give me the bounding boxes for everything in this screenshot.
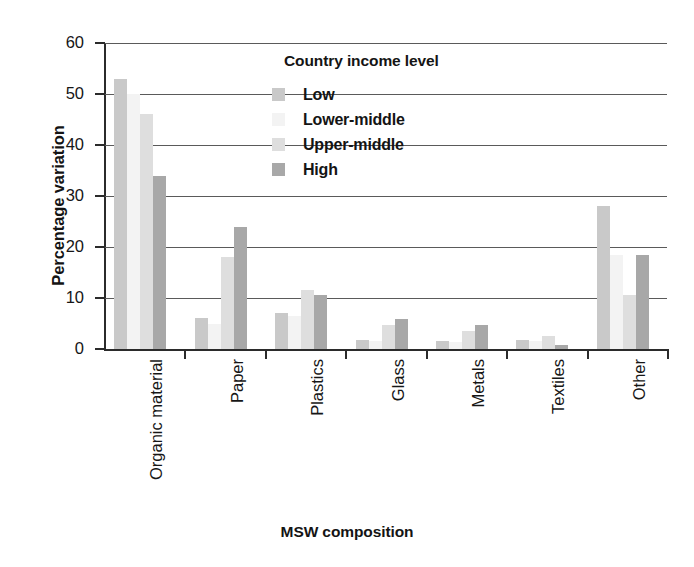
bar: [314, 295, 327, 349]
x-axis-tick-label: Other: [631, 359, 648, 519]
x-axis-tick-mark: [506, 349, 508, 359]
x-axis-tick-label: Glass: [390, 359, 407, 519]
bar: [597, 206, 610, 349]
bar: [436, 341, 449, 349]
bar: [529, 341, 542, 349]
bar-group: [597, 43, 649, 349]
legend-entry-label: Upper-middle: [303, 136, 404, 154]
x-axis-tick-label: Plastics: [309, 359, 326, 519]
x-axis-tick-label: Paper: [229, 359, 246, 519]
legend-entry-label: High: [303, 161, 338, 179]
y-axis-tick-label: 50: [0, 85, 84, 102]
y-axis-tick-mark: [95, 297, 105, 299]
x-axis-tick-labels: Organic materialPaperPlasticsGlassMetals…: [104, 359, 667, 519]
legend-entry-list: LowLower-middleUpper-middleHigh: [272, 82, 532, 182]
bar: [208, 324, 221, 350]
y-axis-tick-label: 30: [0, 187, 84, 204]
legend-entry: Lower-middle: [272, 107, 532, 132]
bar: [516, 340, 529, 349]
legend-swatch-icon: [272, 163, 285, 176]
bar: [288, 316, 301, 349]
x-axis-tick-mark: [265, 349, 267, 359]
x-axis-tick-mark: [345, 349, 347, 359]
y-axis-tick-mark: [95, 144, 105, 146]
y-axis-line: [104, 43, 106, 351]
y-axis-tick-mark: [95, 93, 105, 95]
bar: [462, 331, 475, 349]
y-axis-tick-label: 60: [0, 34, 84, 51]
bar: [356, 340, 369, 349]
legend-swatch-icon: [272, 138, 285, 151]
y-axis-tick-mark: [95, 195, 105, 197]
x-axis-tick-mark: [587, 349, 589, 359]
y-axis-tick-mark: [95, 42, 105, 44]
x-axis-tick-mark: [667, 349, 669, 359]
bar: [127, 94, 140, 349]
legend-title: Country income level: [272, 52, 532, 70]
x-axis-tick-label: Metals: [470, 359, 487, 519]
y-axis-tick-label: 0: [0, 340, 84, 357]
legend-swatch-icon: [272, 88, 285, 101]
bar: [475, 325, 488, 349]
legend-entry-label: Lower-middle: [303, 111, 405, 129]
bar: [542, 336, 555, 349]
x-axis-tick-label: Textiles: [550, 359, 567, 519]
bar: [382, 325, 395, 349]
chart-legend: Country income level LowLower-middleUppe…: [272, 52, 532, 182]
y-axis-tick-label: 20: [0, 238, 84, 255]
legend-swatch-icon: [272, 113, 285, 126]
bar: [610, 255, 623, 349]
bar: [114, 79, 127, 349]
bar: [153, 176, 166, 349]
legend-entry: Low: [272, 82, 532, 107]
x-axis-tick-label: Organic material: [148, 359, 165, 519]
y-axis-tick-label: 40: [0, 136, 84, 153]
bar-group: [114, 43, 166, 349]
x-axis-title: MSW composition: [0, 523, 694, 541]
bar: [275, 313, 288, 349]
legend-entry-label: Low: [303, 86, 334, 104]
y-axis-tick-labels: 0102030405060: [0, 43, 96, 351]
bar: [636, 255, 649, 349]
bar: [623, 295, 636, 349]
bar: [369, 341, 382, 349]
bar: [555, 345, 568, 349]
bar: [395, 319, 408, 349]
y-axis-tick-mark: [95, 246, 105, 248]
y-axis-tick-label: 10: [0, 289, 84, 306]
bar-group: [195, 43, 247, 349]
chart-figure: Percentage variation 0102030405060 Organ…: [0, 0, 694, 567]
x-axis-tick-mark: [184, 349, 186, 359]
bar: [234, 227, 247, 349]
bar: [449, 342, 462, 349]
bar: [140, 114, 153, 349]
bar: [301, 290, 314, 349]
legend-entry: High: [272, 157, 532, 182]
bar: [221, 257, 234, 349]
x-axis-tick-mark: [426, 349, 428, 359]
x-axis-line: [104, 349, 667, 351]
bar: [195, 318, 208, 349]
y-axis-tick-mark: [95, 348, 105, 350]
legend-entry: Upper-middle: [272, 132, 532, 157]
